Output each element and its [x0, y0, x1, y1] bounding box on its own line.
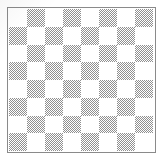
board-square-light: [9, 80, 27, 98]
board-square-light: [9, 45, 27, 63]
board-square-dark: [9, 27, 27, 45]
board-square-light: [117, 80, 135, 98]
board-square-light: [45, 116, 63, 134]
board-square-dark: [117, 133, 135, 151]
board-square-light: [27, 27, 45, 45]
board-square-dark: [81, 62, 99, 80]
board-square-light: [81, 80, 99, 98]
board-square-light: [45, 9, 63, 27]
board-square-dark: [9, 98, 27, 116]
board-square-dark: [99, 80, 117, 98]
board-border: [7, 7, 156, 153]
board-square-dark: [81, 133, 99, 151]
board-square-dark: [27, 116, 45, 134]
board-square-light: [81, 9, 99, 27]
board-square-dark: [135, 80, 153, 98]
board-square-dark: [99, 116, 117, 134]
board-square-light: [135, 133, 153, 151]
board-square-dark: [99, 45, 117, 63]
board-square-light: [45, 80, 63, 98]
board-square-dark: [45, 27, 63, 45]
board-square-light: [63, 62, 81, 80]
board-square-dark: [135, 116, 153, 134]
board-square-dark: [9, 133, 27, 151]
board-square-light: [63, 98, 81, 116]
board-square-dark: [27, 9, 45, 27]
board-square-dark: [81, 27, 99, 45]
figure-root: [0, 0, 164, 166]
board-square-light: [117, 45, 135, 63]
board-square-light: [135, 98, 153, 116]
board-square-light: [99, 133, 117, 151]
board-square-dark: [63, 116, 81, 134]
board-square-dark: [117, 98, 135, 116]
board-square-dark: [63, 45, 81, 63]
board-square-light: [27, 98, 45, 116]
board-square-dark: [117, 62, 135, 80]
board-square-dark: [81, 98, 99, 116]
board-square-light: [9, 116, 27, 134]
board-square-dark: [63, 9, 81, 27]
board-square-dark: [45, 133, 63, 151]
board-square-light: [45, 45, 63, 63]
board-square-light: [27, 62, 45, 80]
checkerboard-grid: [9, 9, 153, 151]
board-square-dark: [9, 62, 27, 80]
board-square-dark: [63, 80, 81, 98]
board-square-light: [63, 27, 81, 45]
board-square-light: [27, 133, 45, 151]
board-square-light: [63, 133, 81, 151]
board-square-light: [117, 9, 135, 27]
board-square-dark: [45, 98, 63, 116]
board-square-light: [99, 62, 117, 80]
board-square-light: [81, 45, 99, 63]
board-square-dark: [135, 45, 153, 63]
board-square-light: [9, 9, 27, 27]
board-square-dark: [99, 9, 117, 27]
board-square-light: [99, 98, 117, 116]
board-square-light: [135, 62, 153, 80]
board-square-light: [99, 27, 117, 45]
board-square-dark: [117, 27, 135, 45]
board-square-dark: [27, 80, 45, 98]
board-square-light: [81, 116, 99, 134]
board-square-light: [135, 27, 153, 45]
board-square-dark: [27, 45, 45, 63]
board-square-dark: [135, 9, 153, 27]
board-square-dark: [45, 62, 63, 80]
board-square-light: [117, 116, 135, 134]
